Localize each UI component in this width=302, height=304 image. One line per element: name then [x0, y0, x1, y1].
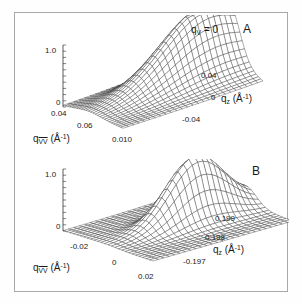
figure-frame: qV = 0 A 1.0 0 0.04 0.06 0.010 0.04 0 -0…	[14, 12, 288, 292]
ztick-b-1: 1.0	[45, 171, 56, 179]
xtick-b-1: 0	[112, 259, 116, 267]
axis-title-b-qvv: qVV (Å-1)	[33, 263, 70, 274]
axis-title-b-qz: qz (Å-1)	[213, 245, 244, 256]
xtick-b-2: 0.02	[138, 273, 154, 281]
surface-plot-panel-a: qV = 0 A 1.0 0 0.04 0.06 0.010 0.04 0 -0…	[15, 15, 289, 155]
xtick-a-2: 0.010	[112, 136, 132, 144]
ztick-b-0: 0	[56, 223, 60, 231]
ztick-a-0: 0	[56, 99, 60, 107]
ztick-a-1: 1.0	[45, 47, 56, 55]
axis-title-a-qz: qz (Å-1)	[221, 94, 252, 105]
annotation-qv-zero: qV = 0	[191, 25, 218, 36]
ytick-b-1: 0.198	[205, 234, 225, 242]
ytick-b-2: -0.197	[183, 258, 206, 266]
ytick-b-0: 0.199	[215, 215, 235, 223]
panel-label-b: B	[252, 165, 260, 177]
ytick-a-2: -0.04	[182, 116, 200, 124]
ytick-a-0: 0.04	[201, 72, 217, 80]
figure-canvas: qV = 0 A 1.0 0 0.04 0.06 0.010 0.04 0 -0…	[0, 0, 302, 304]
axis-title-a-qvv: qVV (Å-1)	[33, 134, 70, 145]
xtick-b-0: -0.02	[70, 243, 88, 251]
xtick-a-1: 0.06	[77, 122, 93, 130]
surface-plot-panel-b: B 1.0 0 -0.02 0 0.02 0.199 0.198 -0.197 …	[15, 159, 289, 299]
ytick-a-1: 0	[211, 94, 215, 102]
panel-label-a: A	[243, 23, 251, 35]
xtick-a-0: 0.04	[51, 110, 67, 118]
